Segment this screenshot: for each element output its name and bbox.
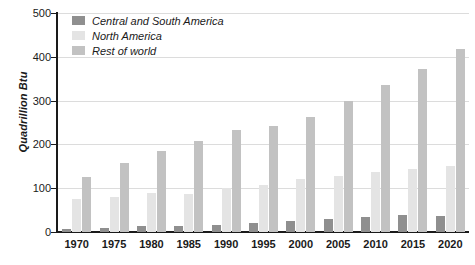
y-axis-tick-label: 100	[11, 182, 51, 194]
legend-swatch-icon	[72, 31, 85, 40]
x-axis-tick-label: 1995	[245, 238, 282, 250]
bar	[446, 166, 455, 232]
bar	[82, 177, 91, 232]
y-axis-tick-label: 300	[11, 95, 51, 107]
bar	[174, 226, 183, 232]
bar	[62, 229, 71, 233]
y-axis-tick-labels: 0100200300400500	[6, 13, 51, 232]
bar	[296, 179, 305, 232]
x-axis-tick-label: 2000	[282, 238, 319, 250]
bar	[381, 85, 390, 232]
bar-group	[282, 13, 319, 232]
x-axis-tick-label: 1985	[170, 238, 207, 250]
legend-swatch-icon	[72, 46, 85, 55]
bar	[222, 188, 231, 232]
bar	[110, 197, 119, 232]
bar	[194, 141, 203, 232]
legend-label: Central and South America	[92, 15, 224, 27]
bar	[249, 223, 258, 232]
bar	[259, 185, 268, 232]
bar	[286, 221, 295, 232]
bar	[184, 194, 193, 232]
bar	[344, 101, 353, 232]
y-axis-tick-label: 200	[11, 138, 51, 150]
bar	[100, 228, 109, 232]
legend-item: North America	[72, 29, 224, 42]
bar	[147, 193, 156, 232]
bar	[398, 215, 407, 232]
y-axis-tick-mark	[51, 232, 56, 233]
bar	[334, 176, 343, 233]
legend: Central and South AmericaNorth AmericaRe…	[72, 14, 224, 59]
y-axis-tick-label: 500	[11, 7, 51, 19]
bar	[361, 217, 370, 232]
bar	[72, 199, 81, 232]
legend-label: Rest of world	[92, 45, 156, 57]
bar-group	[357, 13, 394, 232]
x-axis-tick-label: 2020	[432, 238, 469, 250]
x-axis-tick-label: 2010	[357, 238, 394, 250]
bar	[137, 226, 146, 232]
y-axis-tick-mark	[51, 144, 56, 145]
bar	[306, 117, 315, 232]
bar	[120, 163, 129, 232]
x-axis-tick-label: 1990	[207, 238, 244, 250]
bar	[324, 219, 333, 232]
legend-item: Rest of world	[72, 44, 224, 57]
y-axis-tick-label: 0	[11, 226, 51, 238]
bar	[269, 126, 278, 232]
x-axis-tick-label: 2015	[394, 238, 431, 250]
y-axis-tick-mark	[51, 101, 56, 102]
bar	[212, 225, 221, 232]
bar	[418, 69, 427, 232]
legend-swatch-icon	[72, 16, 85, 25]
y-axis-tick-mark	[51, 57, 56, 58]
bar	[436, 216, 445, 232]
x-axis-tick-label: 2005	[320, 238, 357, 250]
bar-group	[394, 13, 431, 232]
bar	[456, 49, 465, 232]
x-axis-tick-label: 1980	[133, 238, 170, 250]
legend-item: Central and South America	[72, 14, 224, 27]
x-axis-tick-label: 1975	[95, 238, 132, 250]
bar-group	[432, 13, 469, 232]
y-axis-tick-mark	[51, 188, 56, 189]
bar	[232, 130, 241, 232]
x-axis-tick-labels: 1970197519801985199019952000200520102015…	[58, 238, 469, 250]
legend-label: North America	[92, 30, 162, 42]
y-axis-tick-label: 400	[11, 51, 51, 63]
x-axis-tick-label: 1970	[58, 238, 95, 250]
bar	[371, 172, 380, 232]
bar-group	[320, 13, 357, 232]
bar	[157, 151, 166, 232]
bar-chart: Quadrillion Btu 0100200300400500 1970197…	[0, 0, 475, 265]
y-axis-tick-mark	[51, 13, 56, 14]
bar-group	[245, 13, 282, 232]
bar	[408, 169, 417, 232]
